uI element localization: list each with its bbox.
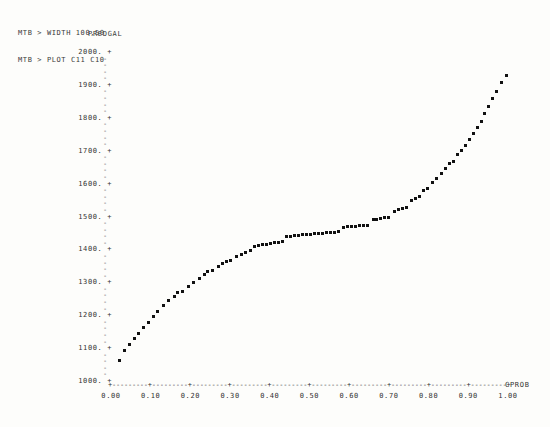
data-point: [464, 144, 467, 147]
data-point: [229, 259, 232, 262]
data-point: [198, 277, 201, 280]
data-point: [325, 231, 328, 234]
data-point: [118, 359, 121, 362]
data-point: [422, 189, 425, 192]
data-point: [173, 295, 176, 298]
data-point: [313, 232, 316, 235]
data-point: [240, 253, 243, 256]
data-point: [337, 230, 340, 233]
data-point: [293, 234, 296, 237]
data-point: [277, 241, 280, 244]
data-point: [176, 291, 179, 294]
data-point: [487, 105, 490, 108]
data-point: [257, 244, 260, 247]
data-point: [285, 235, 288, 238]
data-point: [435, 177, 438, 180]
data-point: [289, 235, 292, 238]
data-point: [301, 233, 304, 236]
data-point: [372, 218, 375, 221]
data-point: [362, 224, 365, 227]
data-point: [305, 233, 308, 236]
data-point: [500, 81, 503, 84]
data-point: [456, 153, 459, 156]
data-point: [431, 181, 434, 184]
data-point: [123, 349, 126, 352]
data-point: [321, 232, 324, 235]
data-point: [505, 74, 508, 77]
data-point: [137, 332, 140, 335]
data-point: [401, 207, 404, 210]
data-point: [350, 225, 353, 228]
data-point: [333, 231, 336, 234]
data-point: [476, 126, 479, 129]
data-point: [297, 234, 300, 237]
data-point: [342, 226, 345, 229]
data-point: [418, 195, 421, 198]
data-point: [448, 162, 451, 165]
data-point: [203, 273, 206, 276]
data-point: [281, 240, 284, 243]
data-point: [225, 260, 228, 263]
data-point: [265, 243, 268, 246]
data-point: [346, 225, 349, 228]
data-point: [181, 290, 184, 293]
data-point: [495, 90, 498, 93]
data-point: [472, 132, 475, 135]
data-point: [375, 218, 378, 221]
x-axis-line: +---------+---------+---------+---------…: [108, 381, 510, 389]
data-point: [468, 138, 471, 141]
data-point: [317, 232, 320, 235]
data-point: [162, 304, 165, 307]
data-point: [483, 112, 486, 115]
data-point: [147, 321, 150, 324]
data-point: [354, 225, 357, 228]
data-point: [405, 206, 408, 209]
data-point: [128, 343, 131, 346]
data-point: [152, 315, 155, 318]
data-point: [460, 149, 463, 152]
data-point: [187, 285, 190, 288]
data-point: [358, 224, 361, 227]
data-point: [192, 281, 195, 284]
data-point: [235, 255, 238, 258]
data-point: [491, 97, 494, 100]
data-point: [206, 270, 209, 273]
data-point: [133, 337, 136, 340]
data-point: [387, 216, 390, 219]
data-point: [393, 210, 396, 213]
data-point: [414, 197, 417, 200]
data-point: [397, 208, 400, 211]
data-point: [167, 299, 170, 302]
data-point: [211, 269, 214, 272]
data-point: [273, 241, 276, 244]
data-point: [217, 265, 220, 268]
data-point: [244, 251, 247, 254]
data-point: [156, 310, 159, 313]
data-point: [444, 167, 447, 170]
data-point: [366, 224, 369, 227]
data-point: [309, 233, 312, 236]
data-point: [440, 172, 443, 175]
minitab-plot-screen: MTB > WIDTH 100,50 MTB > PLOT C11 C10 PR…: [0, 0, 550, 427]
data-point: [383, 216, 386, 219]
data-point: [426, 187, 429, 190]
data-point: [410, 199, 413, 202]
x-axis-variable-label: CPROB: [505, 381, 530, 389]
data-point: [329, 231, 332, 234]
data-point: [253, 245, 256, 248]
data-point: [452, 160, 455, 163]
data-point: [249, 249, 252, 252]
data-point: [480, 120, 483, 123]
scatter-points-layer: [0, 0, 550, 427]
data-point: [379, 217, 382, 220]
data-point: [269, 242, 272, 245]
data-point: [261, 243, 264, 246]
data-point: [142, 326, 145, 329]
